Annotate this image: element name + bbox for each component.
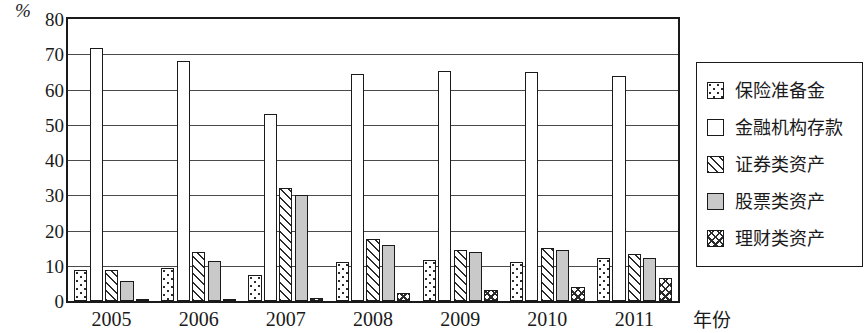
bar (628, 254, 641, 301)
bar (541, 248, 554, 301)
bar (136, 299, 149, 301)
bar (223, 299, 236, 301)
y-tick-label: 70 (38, 45, 64, 64)
bar (192, 252, 205, 301)
x-tick-label: 2011 (615, 308, 654, 330)
bar (597, 258, 610, 301)
legend-swatch-icon (707, 119, 724, 136)
y-tick-label: 40 (38, 151, 64, 170)
bar (510, 262, 523, 301)
bar (556, 250, 569, 301)
bar (469, 252, 482, 301)
bar (74, 270, 87, 301)
bar (295, 195, 308, 301)
bar-group (155, 19, 242, 301)
bar (120, 281, 133, 301)
y-tick-label: 20 (38, 221, 64, 240)
y-tick-label: 10 (38, 256, 64, 275)
bar (310, 298, 323, 301)
y-tick-label: 0 (38, 292, 64, 311)
x-axis-tick-labels: 2005200620072008200920102011 (66, 303, 680, 333)
bar (105, 270, 118, 301)
bar (208, 261, 221, 301)
legend-swatch-icon (707, 82, 724, 99)
bar-group (504, 19, 591, 301)
bar (264, 114, 277, 301)
bar (90, 48, 103, 301)
x-tick-label: 2007 (266, 308, 306, 330)
legend-label: 股票类资产 (735, 193, 825, 211)
bar (484, 290, 497, 301)
bar (177, 61, 190, 301)
x-axis-title: 年份 (693, 305, 731, 332)
bar (659, 278, 672, 301)
bar (525, 72, 538, 301)
legend-swatch-icon (707, 230, 724, 247)
bar-group (417, 19, 504, 301)
bar-group (329, 19, 416, 301)
bar (336, 262, 349, 301)
legend-item[interactable]: 金融机构存款 (707, 109, 862, 146)
bar (643, 258, 656, 301)
legend-swatch-icon (707, 156, 724, 173)
x-tick-label: 2008 (353, 308, 393, 330)
bar (612, 76, 625, 301)
legend-label: 保险准备金 (735, 82, 825, 100)
legend-item[interactable]: 股票类资产 (707, 183, 862, 220)
bars-layer (68, 19, 678, 301)
legend-item[interactable]: 理财类资产 (707, 220, 862, 257)
y-tick-label: 50 (38, 115, 64, 134)
legend-label: 金融机构存款 (735, 119, 843, 137)
bar (423, 260, 436, 301)
x-tick-label: 2010 (527, 308, 567, 330)
bar (366, 239, 379, 301)
bar (571, 287, 584, 301)
bar (351, 74, 364, 301)
x-tick-label: 2006 (179, 308, 219, 330)
bar-chart: % 01020304050607080 20052006200720082009… (0, 0, 865, 333)
bar-group (242, 19, 329, 301)
bar (161, 268, 174, 301)
legend-label: 证券类资产 (735, 156, 825, 174)
x-tick-label: 2005 (92, 308, 132, 330)
y-axis-tick-labels: 01020304050607080 (38, 0, 64, 333)
bar (382, 245, 395, 301)
legend-item[interactable]: 保险准备金 (707, 72, 862, 109)
y-tick-label: 30 (38, 186, 64, 205)
legend-label: 理财类资产 (735, 230, 825, 248)
y-tick-label: 60 (38, 80, 64, 99)
bar (279, 188, 292, 301)
bar (438, 71, 451, 301)
bar-group (68, 19, 155, 301)
legend: 保险准备金金融机构存款证券类资产股票类资产理财类资产 (696, 62, 863, 267)
bar (454, 250, 467, 301)
legend-item[interactable]: 证券类资产 (707, 146, 862, 183)
legend-swatch-icon (707, 193, 724, 210)
bar (248, 275, 261, 301)
plot-area (66, 17, 680, 303)
y-axis-title: % (6, 0, 40, 22)
x-tick-label: 2009 (440, 308, 480, 330)
bar (397, 293, 410, 301)
bar-group (591, 19, 678, 301)
y-tick-label: 80 (38, 10, 64, 29)
